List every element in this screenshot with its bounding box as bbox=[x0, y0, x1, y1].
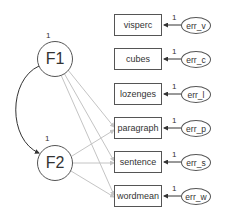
err-s-loading: 1 bbox=[172, 150, 176, 159]
path-f2-paragraph bbox=[72, 130, 114, 156]
f1-variance-label: 1 bbox=[46, 31, 50, 40]
error-err-v[interactable]: err_v bbox=[181, 17, 211, 34]
error-err-s[interactable]: err_s bbox=[181, 154, 211, 171]
observed-wordmean[interactable]: wordmean bbox=[114, 185, 162, 207]
error-err-c[interactable]: err_c bbox=[181, 51, 211, 68]
observed-lozenges[interactable]: lozenges bbox=[114, 83, 162, 105]
latent-f2[interactable]: F2 bbox=[37, 145, 73, 181]
latent-f1[interactable]: F1 bbox=[37, 41, 73, 77]
err-l-loading: 1 bbox=[172, 82, 176, 91]
path-f1-paragraph bbox=[68, 70, 114, 127]
err-v-loading: 1 bbox=[172, 13, 176, 22]
error-err-l[interactable]: err_l bbox=[181, 86, 211, 103]
observed-paragraph[interactable]: paragraph bbox=[114, 117, 162, 139]
path-f2-wordmean bbox=[71, 171, 114, 197]
err-c-loading: 1 bbox=[172, 47, 176, 56]
observed-sentence[interactable]: sentence bbox=[114, 151, 162, 173]
covariance-arrow-f1-f2 bbox=[16, 66, 39, 153]
observed-visperc[interactable]: visperc bbox=[114, 14, 162, 36]
err-w-loading: 1 bbox=[172, 184, 176, 193]
observed-cubes[interactable]: cubes bbox=[114, 48, 162, 70]
err-p-loading: 1 bbox=[172, 116, 176, 125]
error-err-p[interactable]: err_p bbox=[181, 120, 211, 137]
error-err-w[interactable]: err_w bbox=[181, 188, 211, 205]
f2-variance-label: 1 bbox=[45, 134, 49, 143]
